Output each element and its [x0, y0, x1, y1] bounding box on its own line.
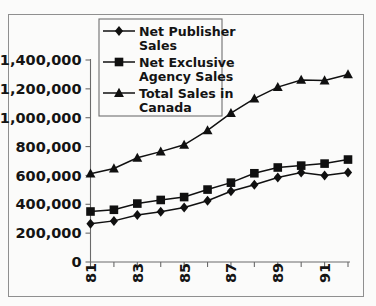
x-axis-tick-label: 89: [270, 263, 286, 283]
y-axis-tick-label: 1,400,000: [0, 52, 82, 68]
marker-square: [86, 207, 95, 216]
legend-label-continued: Sales: [139, 38, 177, 53]
marker-triangle: [249, 93, 259, 102]
marker-diamond: [344, 168, 352, 178]
series-diamond: [86, 168, 352, 229]
marker-diamond: [203, 196, 211, 206]
legend-label: Total Sales in: [139, 86, 233, 101]
marker-square: [180, 193, 189, 202]
y-axis-tick-label: 400,000: [15, 196, 81, 212]
legend-label-continued: Canada: [139, 100, 192, 115]
x-axis-tick-label: 87: [223, 263, 239, 283]
marker-diamond: [86, 219, 94, 229]
marker-square: [250, 169, 259, 178]
marker-square: [320, 159, 329, 168]
series-line: [91, 173, 349, 224]
marker-diamond: [157, 207, 165, 217]
y-axis-tick-label: 800,000: [15, 139, 81, 155]
marker-diamond: [133, 210, 141, 220]
marker-triangle: [203, 125, 213, 134]
marker-square: [115, 58, 124, 67]
legend-label-continued: Agency Sales: [139, 69, 233, 84]
marker-square: [133, 199, 142, 208]
marker-diamond: [110, 216, 118, 226]
x-axis-tick-label: 81: [83, 263, 99, 283]
line-chart: 0200,000400,000600,000800,0001,000,0001,…: [0, 0, 376, 306]
marker-triangle: [179, 140, 189, 149]
marker-diamond: [250, 180, 258, 190]
marker-square: [297, 161, 306, 170]
y-axis-tick-label: 600,000: [15, 168, 81, 184]
marker-diamond: [320, 170, 328, 180]
x-axis-tick-label: 85: [177, 263, 193, 283]
marker-square: [203, 185, 212, 194]
marker-diamond: [274, 173, 282, 183]
legend-label: Net Exclusive: [139, 55, 235, 70]
series-square: [86, 155, 352, 216]
chart-figure: 0200,000400,000600,000800,0001,000,0001,…: [0, 0, 376, 306]
x-axis-tick-label: 91: [317, 263, 333, 283]
y-axis-tick-label: 0: [71, 254, 81, 270]
marker-square: [227, 178, 236, 187]
series-line: [91, 160, 349, 212]
y-axis: 0200,000400,000600,000800,0001,000,0001,…: [0, 52, 91, 270]
y-axis-tick-label: 200,000: [15, 225, 81, 241]
marker-triangle: [226, 108, 236, 117]
marker-diamond: [180, 202, 188, 212]
x-axis: 818385878991: [83, 262, 350, 283]
marker-square: [156, 196, 165, 205]
marker-square: [273, 163, 282, 172]
x-axis-tick-label: 83: [130, 263, 146, 283]
chart-legend: Net PublisherSalesNet ExclusiveAgency Sa…: [99, 19, 236, 116]
legend-label: Net Publisher: [139, 24, 236, 39]
marker-triangle: [109, 163, 119, 172]
marker-square: [110, 205, 119, 214]
y-axis-tick-label: 1,000,000: [0, 110, 82, 126]
marker-diamond: [227, 186, 235, 196]
marker-square: [344, 155, 353, 164]
marker-triangle: [343, 69, 353, 78]
y-axis-tick-label: 1,200,000: [0, 81, 82, 97]
